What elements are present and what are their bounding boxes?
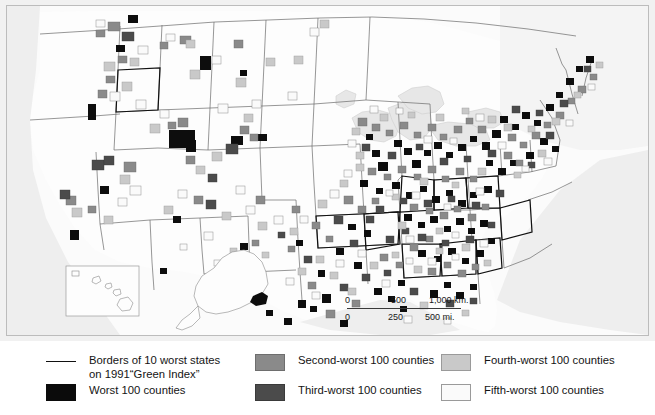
swatch-worst-icon — [46, 384, 76, 401]
swatch-fifth-worst-icon — [441, 384, 471, 401]
scale-km-tick-2: 1,000 km. — [429, 294, 469, 307]
legend-item-worst: Worst 100 counties — [46, 384, 186, 401]
scale-bar-km-row: 0 500 1,000 km. — [345, 294, 470, 308]
hawaii-inset — [66, 266, 139, 316]
scale-bar-mi-row: 0 250 500 mi. — [345, 311, 470, 325]
scale-mi-tick-0: 0 — [345, 311, 350, 324]
scale-mi-tick-1: 250 — [388, 311, 403, 324]
legend-column-2: Second-worst 100 counties Third-worst 10… — [255, 341, 455, 415]
map-panel: 0 500 1,000 km. 0 250 500 mi. — [0, 0, 655, 341]
swatch-fourth-worst-icon — [441, 354, 471, 371]
legend-label-worst: Worst 100 counties — [89, 384, 186, 398]
legend-label-fifth-worst: Fifth-worst 100 counties — [484, 384, 604, 398]
legend-label-second-worst: Second-worst 100 counties — [298, 354, 434, 368]
legend-item-third-worst: Third-worst 100 counties — [255, 384, 422, 401]
legend-column-1: Borders of 10 worst states on 1991“Green… — [46, 341, 261, 415]
legend-item-fourth-worst: Fourth-worst 100 counties — [441, 354, 615, 371]
scale-bar: 0 500 1,000 km. 0 250 500 mi. — [345, 294, 470, 328]
swatch-third-worst-icon — [255, 384, 285, 401]
scale-km-tick-1: 500 — [391, 294, 406, 307]
map-legend: Borders of 10 worst states on 1991“Green… — [0, 341, 655, 415]
scale-km-tick-0: 0 — [345, 294, 350, 307]
legend-item-second-worst: Second-worst 100 counties — [255, 354, 434, 371]
legend-label-third-worst: Third-worst 100 counties — [298, 384, 422, 398]
map-figure: 0 500 1,000 km. 0 250 500 mi. Borders of… — [0, 0, 655, 415]
legend-column-3: Fourth-worst 100 counties Fifth-worst 10… — [441, 341, 655, 415]
state-border-line-icon — [46, 354, 76, 371]
legend-label-fourth-worst: Fourth-worst 100 counties — [484, 354, 615, 368]
usa-county-choropleth — [0, 0, 655, 341]
legend-label-state-borders: Borders of 10 worst states on 1991“Green… — [89, 354, 220, 381]
legend-item-fifth-worst: Fifth-worst 100 counties — [441, 384, 604, 401]
scale-mi-tick-2: 500 mi. — [425, 311, 455, 324]
swatch-second-worst-icon — [255, 354, 285, 371]
scale-bar-rule — [347, 308, 461, 309]
legend-item-state-borders: Borders of 10 worst states on 1991“Green… — [46, 354, 220, 381]
